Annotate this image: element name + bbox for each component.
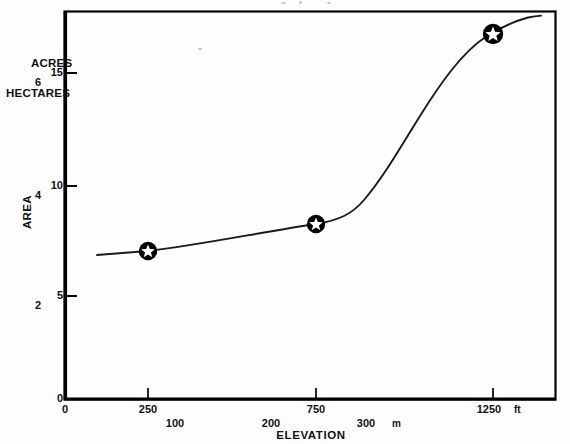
data-marker-750ft	[307, 215, 325, 233]
y-axis-title: AREA	[22, 195, 34, 229]
x-tick-label-200m: 200	[248, 418, 294, 429]
y-unit-hectares-label: HECTARES	[6, 88, 70, 100]
chart-figure: ACRES 15 6 HECTARES 10 4 5 2 0 AREA 0 25…	[0, 0, 570, 444]
x-axis-title: ELEVATION	[241, 430, 381, 442]
x-tick-label-100m: 100	[152, 418, 198, 429]
y-tick-label-15: 15	[41, 67, 63, 78]
data-marker-250ft	[139, 242, 157, 260]
x-unit-feet-label: ft	[514, 405, 521, 415]
x-tick-label-0: 0	[58, 404, 72, 415]
y-tick-label-5: 5	[41, 290, 63, 301]
y-tick-label-2: 2	[27, 300, 41, 311]
chart-plot-area	[0, 0, 570, 444]
y-tick-label-0: 0	[41, 393, 63, 404]
x-tick-label-300m: 300	[343, 418, 389, 429]
x-tick-label-750: 750	[293, 404, 339, 415]
plot-frame	[65, 12, 556, 400]
x-tick-label-1250: 1250	[466, 404, 512, 415]
data-marker-1250ft	[483, 24, 503, 44]
x-tick-label-250: 250	[125, 404, 171, 415]
y-tick-label-10: 10	[41, 180, 63, 191]
x-unit-meters-label: m	[392, 419, 401, 429]
